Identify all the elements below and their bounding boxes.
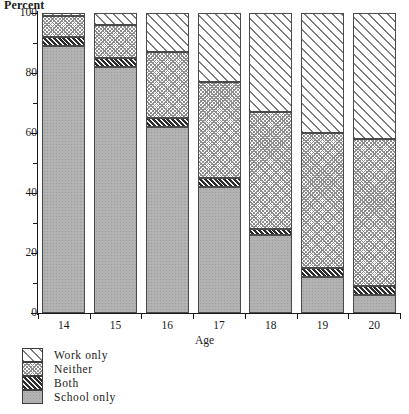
bar-segment[interactable] [301, 13, 344, 133]
y-tick-label: 0 [11, 307, 37, 319]
bar-segment[interactable] [198, 82, 241, 178]
bar-segment[interactable] [94, 13, 137, 25]
bar-segment[interactable] [42, 13, 85, 16]
x-tick-label-18: 18 [251, 319, 291, 331]
bar-segment[interactable] [42, 37, 85, 46]
x-tick-label-16: 16 [147, 319, 187, 331]
legend-label: Both [54, 376, 79, 390]
x-tick [245, 314, 246, 319]
legend-swatch [22, 376, 43, 390]
bar-segment[interactable] [301, 133, 344, 268]
bar-segment[interactable] [94, 67, 137, 313]
bar-group-age-15[interactable] [94, 13, 137, 313]
x-tick [90, 314, 91, 319]
y-tick-minor [33, 223, 37, 224]
bar-group-age-16[interactable] [146, 13, 189, 313]
bar-segment[interactable] [249, 13, 292, 112]
x-tick [38, 314, 39, 319]
bar-segment[interactable] [353, 139, 396, 286]
bar-group-age-17[interactable] [198, 13, 241, 313]
x-tick [400, 314, 401, 319]
bar-segment[interactable] [146, 118, 189, 127]
y-tick-minor [33, 163, 37, 164]
legend-swatch [22, 348, 43, 362]
plot-area [38, 13, 400, 313]
x-tick [141, 314, 142, 319]
bar-segment[interactable] [198, 13, 241, 82]
bar-segment[interactable] [146, 13, 189, 52]
bar-segment[interactable] [146, 52, 189, 118]
bar-segment[interactable] [146, 127, 189, 313]
y-tick-label: 60 [11, 127, 37, 139]
bar-segment[interactable] [301, 277, 344, 313]
x-tick [193, 314, 194, 319]
x-tick [297, 314, 298, 319]
bar-segment[interactable] [301, 268, 344, 277]
bar-segment[interactable] [42, 16, 85, 37]
bar-group-age-14[interactable] [42, 13, 85, 313]
x-tick [348, 314, 349, 319]
y-tick-label: 100 [11, 7, 37, 19]
bar-segment[interactable] [249, 229, 292, 235]
bar-segment[interactable] [94, 58, 137, 67]
y-tick-minor [33, 103, 37, 104]
bar-segment[interactable] [249, 235, 292, 313]
bar-segment[interactable] [94, 25, 137, 58]
bar-group-age-20[interactable] [353, 13, 396, 313]
bar-segment[interactable] [198, 187, 241, 313]
stacked-bar-chart: Percent 020406080100 14151617181920 Age … [0, 0, 409, 414]
x-axis-title: Age [0, 334, 409, 346]
bar-segment[interactable] [353, 13, 396, 139]
y-tick-minor [33, 43, 37, 44]
bar-segment[interactable] [198, 178, 241, 187]
x-tick-label-19: 19 [302, 319, 342, 331]
x-tick-label-20: 20 [354, 319, 394, 331]
y-tick-label: 20 [11, 247, 37, 259]
bar-segment[interactable] [353, 286, 396, 295]
y-tick-label: 40 [11, 187, 37, 199]
bar-segment[interactable] [249, 112, 292, 229]
x-axis-line [37, 313, 401, 314]
bar-segment[interactable] [353, 295, 396, 313]
legend-label: Work only [54, 348, 108, 362]
legend-label: School only [54, 390, 116, 404]
y-tick-label: 80 [11, 67, 37, 79]
bar-segment[interactable] [42, 46, 85, 313]
legend-label: Neither [54, 362, 93, 376]
legend-swatch [22, 390, 43, 404]
legend-swatch [22, 362, 43, 376]
bar-group-age-18[interactable] [249, 13, 292, 313]
x-tick-label-15: 15 [96, 319, 136, 331]
y-tick-minor [33, 283, 37, 284]
x-tick-label-14: 14 [44, 319, 84, 331]
x-tick-label-17: 17 [199, 319, 239, 331]
bar-group-age-19[interactable] [301, 13, 344, 313]
